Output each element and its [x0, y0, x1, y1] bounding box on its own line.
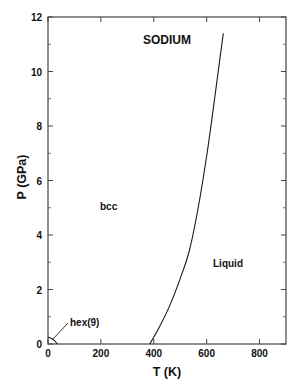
x-tick-label: 400 — [145, 348, 162, 359]
x-tick-label: 0 — [45, 348, 51, 359]
phase-diagram-chart: 0200400600800024681012 SODIUM bcc Liquid… — [0, 0, 301, 389]
region-label-liquid: Liquid — [213, 258, 243, 269]
chart-title: SODIUM — [143, 33, 191, 47]
hex-leader-line — [52, 323, 68, 340]
y-tick-label: 8 — [36, 121, 42, 132]
region-label-hex: hex(9) — [70, 317, 99, 328]
y-tick-label: 10 — [31, 67, 43, 78]
y-tick-label: 6 — [36, 176, 42, 187]
x-axis-title: T (K) — [153, 365, 181, 379]
y-tick-label: 2 — [36, 285, 42, 296]
tick-labels: 0200400600800024681012 — [31, 12, 268, 359]
minor-ticks — [48, 44, 286, 317]
y-tick-label: 4 — [36, 230, 42, 241]
major-ticks — [48, 17, 286, 344]
x-tick-label: 800 — [251, 348, 268, 359]
y-tick-label: 12 — [31, 12, 43, 23]
y-tick-label: 0 — [36, 339, 42, 350]
x-tick-label: 600 — [198, 348, 215, 359]
y-axis-title: P (GPa) — [15, 155, 29, 200]
series-layer — [48, 33, 223, 344]
series-line — [48, 337, 57, 344]
plot-frame — [48, 17, 286, 344]
region-label-bcc: bcc — [100, 201, 118, 212]
series-line — [150, 33, 224, 344]
x-tick-label: 200 — [93, 348, 110, 359]
